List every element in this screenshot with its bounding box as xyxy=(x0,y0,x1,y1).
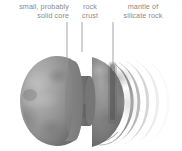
mantle-blotch-4 xyxy=(89,62,109,78)
label-core: small, probably solid core xyxy=(7,2,69,20)
core-front-face xyxy=(85,76,96,126)
surface-blotch-4 xyxy=(47,67,69,85)
label-mantle: mantle of silicate rock xyxy=(108,2,178,20)
surface-crater xyxy=(23,89,37,101)
right-hemisphere-body xyxy=(89,57,140,147)
label-crust: rock crust xyxy=(76,2,104,20)
label-cropped-left: ve xyxy=(0,38,11,47)
left-cut-face-edge xyxy=(65,61,83,141)
mantle-shell-outermost xyxy=(140,57,170,147)
crust-seam-soft xyxy=(108,62,117,124)
left-hemisphere xyxy=(8,56,83,146)
mantle-blotch-3 xyxy=(116,86,140,122)
planet-interior-diagram xyxy=(0,0,182,151)
surface-blotch-3 xyxy=(38,117,66,139)
